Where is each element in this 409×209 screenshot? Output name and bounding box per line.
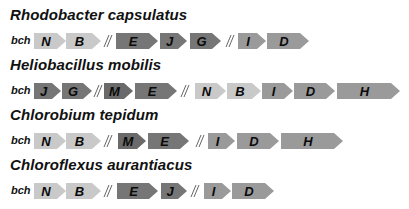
gene-arrow-e: E bbox=[135, 83, 177, 99]
gene-arrow-i: I bbox=[204, 183, 231, 199]
gene-arrow-m: M bbox=[104, 83, 133, 99]
gene-arrow-j: J bbox=[160, 33, 187, 49]
gene-arrow-i: I bbox=[238, 33, 266, 49]
gene-arrow-n: N bbox=[195, 83, 226, 99]
gene-cluster-row: bch NBEJGID bbox=[0, 33, 409, 49]
organism-title: Rhodobacter capsulatus bbox=[10, 6, 187, 23]
sequence-break-icon bbox=[103, 33, 113, 49]
gene-arrow-i: I bbox=[262, 83, 293, 99]
gene-arrow-h: H bbox=[337, 83, 400, 99]
gene-arrow-d: D bbox=[267, 33, 309, 49]
gene-arrow-d: D bbox=[237, 133, 279, 149]
gene-arrow-e: E bbox=[116, 33, 158, 49]
organism-title: Chlorobium tepidum bbox=[10, 106, 158, 123]
gene-arrow-g: G bbox=[190, 33, 221, 49]
gene-prefix-label: bch bbox=[11, 84, 31, 96]
gene-arrow-b: B bbox=[66, 33, 101, 49]
gene-arrow-m: M bbox=[118, 133, 146, 149]
gene-cluster-row: bch JGMENBIDH bbox=[0, 83, 409, 99]
gene-prefix-label: bch bbox=[11, 184, 31, 196]
sequence-break-icon bbox=[190, 183, 200, 199]
gene-arrow-b: B bbox=[66, 183, 101, 199]
gene-arrow-n: N bbox=[34, 133, 66, 149]
gene-cluster-row: bch NBEJID bbox=[0, 183, 409, 199]
gene-arrow-i: I bbox=[208, 133, 235, 149]
gene-arrow-n: N bbox=[34, 33, 66, 49]
organism-title: Heliobacillus mobilis bbox=[10, 56, 161, 73]
gene-arrow-n: N bbox=[34, 183, 66, 199]
gene-arrow-j: J bbox=[34, 83, 61, 99]
sequence-break-icon bbox=[103, 133, 113, 149]
gene-arrow-b: B bbox=[66, 133, 101, 149]
gene-arrow-d: D bbox=[294, 83, 335, 99]
organism-title: Chloroflexus aurantiacus bbox=[10, 156, 192, 173]
sequence-break-icon bbox=[225, 33, 235, 49]
gene-cluster-row: bch NBMEIDH bbox=[0, 133, 409, 149]
sequence-break-icon bbox=[93, 83, 103, 99]
gene-arrow-b: B bbox=[227, 83, 261, 99]
gene-arrow-g: G bbox=[62, 83, 92, 99]
gene-arrow-h: H bbox=[281, 133, 343, 149]
sequence-break-icon bbox=[195, 133, 205, 149]
gene-prefix-label: bch bbox=[11, 34, 31, 46]
sequence-break-icon bbox=[103, 183, 113, 199]
gene-arrow-j: J bbox=[161, 183, 187, 199]
sequence-break-icon bbox=[180, 83, 190, 99]
gene-arrow-e: E bbox=[148, 133, 189, 149]
gene-prefix-label: bch bbox=[11, 134, 31, 146]
gene-arrow-d: D bbox=[232, 183, 274, 199]
gene-arrow-e: E bbox=[117, 183, 158, 199]
